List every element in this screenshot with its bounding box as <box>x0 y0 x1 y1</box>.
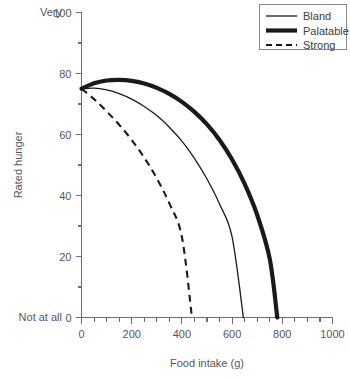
x-tick-label: 1000 <box>320 328 344 340</box>
x-axis-title: Food intake (g) <box>170 357 244 369</box>
legend: BlandPalatableStrong <box>259 4 349 51</box>
x-tick-label: 600 <box>223 328 241 340</box>
y-tick-label: 20 <box>59 251 71 263</box>
plot-area: 020406080100 02004006008001000 Very Not … <box>0 0 350 378</box>
legend-label-palatable: Palatable <box>303 25 349 37</box>
data-series-group <box>82 80 278 318</box>
y-tick-label: 40 <box>59 190 71 202</box>
series-line-bland <box>82 88 244 317</box>
y-axis-title: Rated hunger <box>12 131 24 198</box>
series-line-strong <box>82 89 192 318</box>
x-tick-label: 800 <box>273 328 291 340</box>
legend-label-bland: Bland <box>303 10 331 22</box>
y-tick-label: 80 <box>59 68 71 80</box>
x-tick-label: 200 <box>123 328 141 340</box>
y-axis-ticks: 020406080100 <box>53 7 81 324</box>
y-tick-label: 0 <box>65 312 71 324</box>
hunger-vs-food-intake-chart: 020406080100 02004006008001000 Very Not … <box>0 0 350 378</box>
y-axis-bottom-end-label: Not at all <box>19 311 62 323</box>
x-tick-label: 0 <box>78 328 84 340</box>
y-tick-label: 60 <box>59 129 71 141</box>
y-axis-top-end-label: Very <box>40 6 63 18</box>
x-tick-label: 400 <box>173 328 191 340</box>
x-axis-ticks: 02004006008001000 <box>78 318 344 340</box>
axes: 020406080100 02004006008001000 <box>53 7 345 340</box>
legend-label-strong: Strong <box>303 39 335 51</box>
